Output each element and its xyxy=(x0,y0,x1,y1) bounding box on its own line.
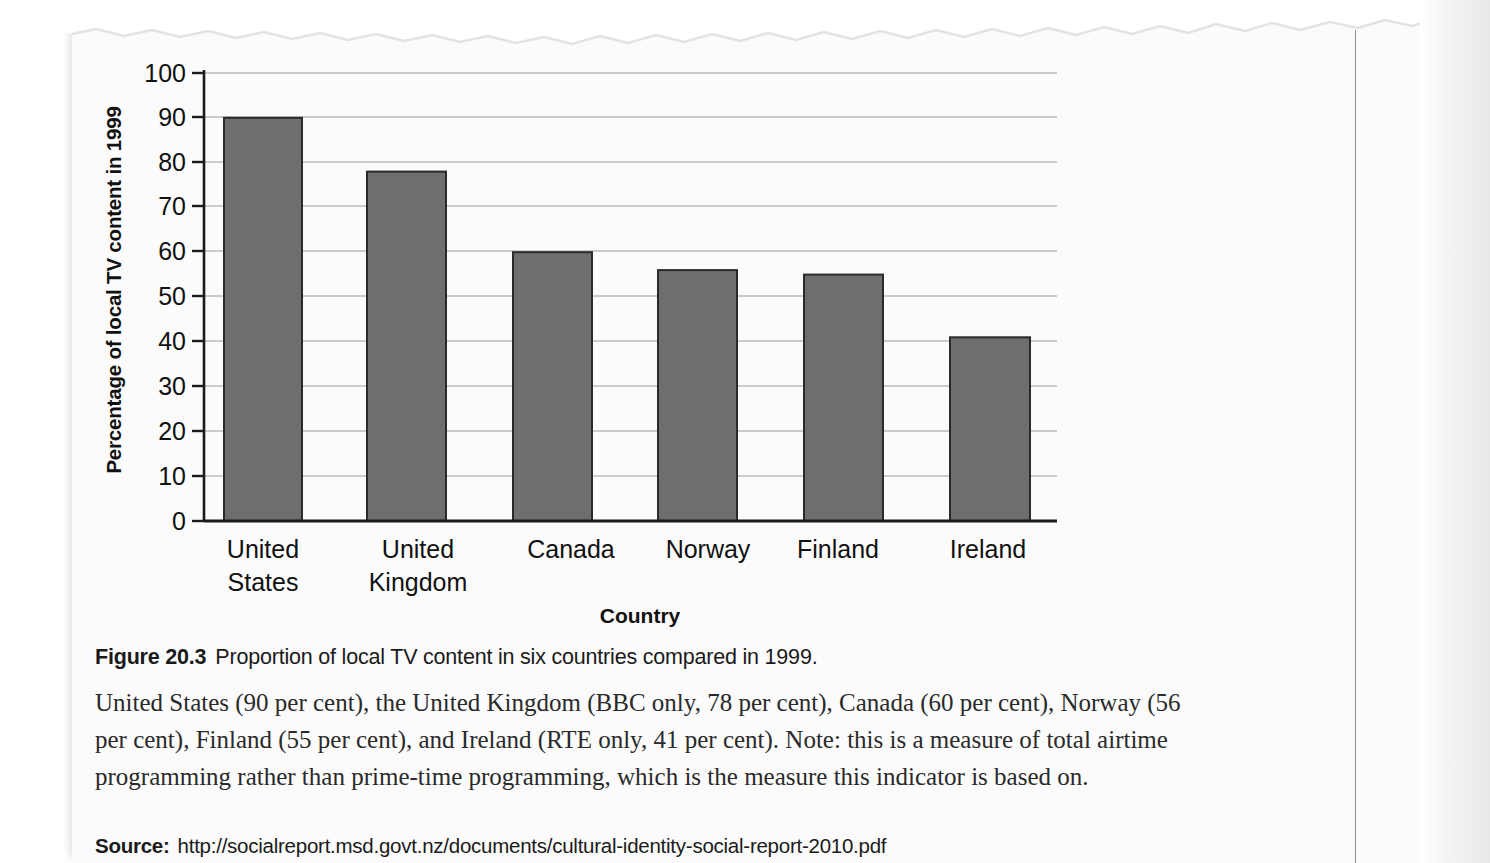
y-tick-label: 70 xyxy=(158,192,186,220)
y-tick-label: 100 xyxy=(144,59,186,87)
y-tick-label: 0 xyxy=(172,507,186,535)
figure-caption-text: Proportion of local TV content in six co… xyxy=(215,645,817,669)
x-tick-label-canada: Canada xyxy=(527,535,615,563)
x-axis-title: Country xyxy=(430,604,850,628)
y-tick-label: 60 xyxy=(158,237,186,265)
x-tick-label-finland: Finland xyxy=(797,535,879,563)
x-tick-label-ireland: Ireland xyxy=(950,535,1026,563)
source-url: http://socialreport.msd.govt.nz/document… xyxy=(178,834,887,857)
x-axis-category-labels: United States United Kingdom Canada Norw… xyxy=(227,535,1026,596)
y-tick-label: 50 xyxy=(158,282,186,310)
page-edge-shadow xyxy=(1420,0,1490,863)
bar-norway xyxy=(658,270,737,521)
y-axis-tick-labels: 100 90 80 70 60 50 40 30 20 10 0 xyxy=(144,59,186,535)
figure-caption: Figure 20.3Proportion of local TV conten… xyxy=(95,645,1275,670)
x-tick-label-united-kingdom-2: Kingdom xyxy=(369,568,468,596)
bar-united-states xyxy=(224,118,302,521)
y-axis xyxy=(192,70,204,521)
bar-series xyxy=(224,118,1030,521)
bar-finland xyxy=(804,275,883,521)
figure-number: Figure 20.3 xyxy=(95,645,206,669)
x-tick-label-united-states-2: States xyxy=(228,568,299,596)
y-tick-label: 10 xyxy=(158,462,186,490)
y-tick-label: 80 xyxy=(158,148,186,176)
x-tick-label-united-kingdom: United xyxy=(382,535,454,563)
x-tick-label-norway: Norway xyxy=(666,535,751,563)
bar-canada xyxy=(513,252,592,521)
bar-chart-plot: 100 90 80 70 60 50 40 30 20 10 0 United … xyxy=(0,0,1362,600)
figure-20-3: Percentage of local TV content in 1999 xyxy=(0,0,1362,863)
y-tick-label: 30 xyxy=(158,372,186,400)
y-tick-label: 40 xyxy=(158,327,186,355)
y-tick-label: 20 xyxy=(158,417,186,445)
bar-united-kingdom xyxy=(367,172,446,521)
figure-body-text: United States (90 per cent), the United … xyxy=(95,684,1215,795)
figure-source: Source:http://socialreport.msd.govt.nz/d… xyxy=(95,834,1275,858)
x-tick-label-united-states: United xyxy=(227,535,299,563)
gridlines xyxy=(204,73,1057,476)
source-label: Source: xyxy=(95,834,170,857)
bar-ireland xyxy=(950,337,1030,521)
y-tick-label: 90 xyxy=(158,103,186,131)
